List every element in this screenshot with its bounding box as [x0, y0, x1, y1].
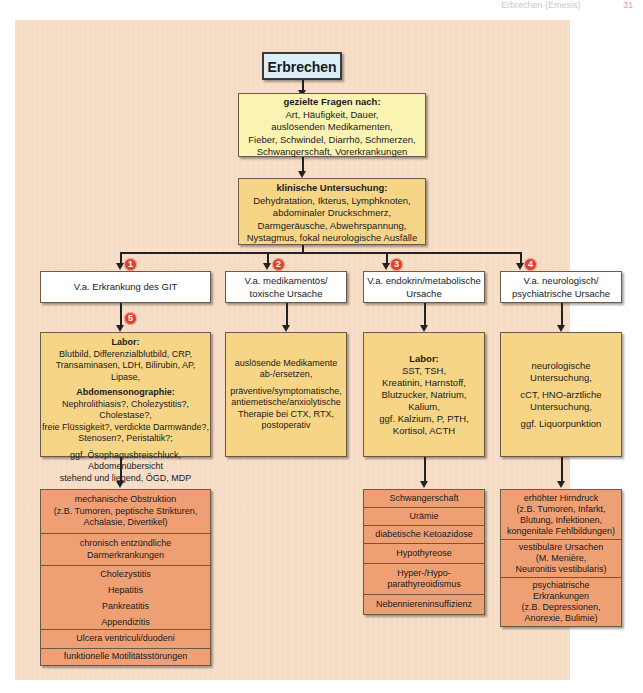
- cause-line: (z.B. Tumoren, peptische Strikturen,: [54, 506, 198, 518]
- workup-heading: Labor:: [41, 337, 210, 349]
- workup-line: Untersuchung,: [501, 401, 621, 413]
- workup-line: antiemetische/anxiolytische: [226, 397, 346, 409]
- cause-item: Nebenniereninsuffizienz: [364, 595, 484, 614]
- cause-item: erhöhter Hirndruck (z.B. Tumoren, Infark…: [501, 490, 621, 540]
- cause-line: diabetische Ketoazidose: [375, 529, 473, 541]
- arrow-icon: [516, 263, 524, 270]
- cause-line: Ulcera ventriculi/duodeni: [76, 633, 175, 645]
- cause-line: (z.B. Depressionen,: [521, 602, 600, 613]
- exam-line: Dehydratation, Ikterus, Lymphknoten,: [239, 195, 425, 208]
- branch-neuro-node: V.a. neurologisch/ psychiatrische Ursach…: [500, 271, 622, 303]
- arrow-icon: [420, 325, 428, 332]
- workup-line: Abdomenübersicht: [41, 461, 210, 473]
- workup-line: cCT, HNO-ärztliche: [501, 389, 621, 401]
- workup-heading: Labor:: [364, 353, 484, 365]
- cause-line: Appendizitis: [101, 614, 150, 630]
- workup-line: stehend und liegend, ÖGD, MDP: [41, 473, 210, 485]
- root-node: Erbrechen: [262, 52, 342, 80]
- questions-node-box: gezielte Fragen nach: Art, Häufigkeit, D…: [238, 93, 426, 157]
- cause-line: Urämie: [409, 511, 438, 523]
- cause-line: kongenitale Fehlbildungen): [507, 526, 615, 537]
- workup-line: präventive/symptomatische,: [226, 386, 346, 398]
- connector: [302, 157, 304, 171]
- branch-gi-node: V.a. Erkrankung des GIT: [40, 271, 211, 303]
- arrow-icon: [420, 481, 428, 488]
- workup-line: Nephrolithiasis?, Cholezystitis?, Choles…: [41, 399, 210, 422]
- cause-item: Hypothyreose: [364, 544, 484, 564]
- cause-line: Pankreatitis: [102, 598, 149, 614]
- exam-line: Darmgeräusche, Abwehrspannung,: [239, 220, 425, 233]
- step-badge-1: 1: [124, 258, 137, 271]
- branch-line: [120, 252, 520, 254]
- connector: [120, 303, 122, 325]
- workup-heading: Abdomensonographie:: [41, 387, 210, 399]
- step-badge-2: 2: [272, 258, 285, 271]
- arrow-icon: [557, 481, 565, 488]
- branch-toxic-node: V.a. medikamentös/ toxische Ursache: [225, 271, 347, 303]
- workup-line: neurologische: [501, 360, 621, 372]
- cause-line: Hypothyreose: [396, 548, 452, 560]
- cause-line: psychiatrische: [532, 580, 589, 591]
- cause-line: Achalasie, Divertikel): [83, 517, 167, 529]
- cause-item: Ulcera ventriculi/duodeni: [41, 630, 210, 649]
- endocrine-causes-list: Schwangerschaft Urämie diabetische Ketoa…: [363, 489, 485, 615]
- workup-line: Kortisol, ACTH: [364, 425, 484, 437]
- branch-neuro-label: V.a. neurologisch/: [501, 275, 621, 288]
- workup-line: auslösende Medikamente: [226, 358, 346, 370]
- step-badge-5: 5: [124, 312, 137, 325]
- questions-line: Fieber, Schwindel, Diarrhö, Schmerzen,: [239, 134, 425, 147]
- cause-line: erhöhter Hirndruck: [524, 493, 599, 504]
- questions-line: Schwangerschaft, Vorerkrankungen: [239, 146, 425, 159]
- branch-endocrine-label: V.a. endokrin/metabolische: [364, 275, 484, 288]
- workup-line: Kreatinin, Harnstoff,: [364, 377, 484, 389]
- cause-line: Hepatitis: [108, 582, 143, 598]
- workup-line: freie Flüssigkeit?, verdickte Darmwände?…: [41, 422, 210, 434]
- arrow-icon: [282, 325, 290, 332]
- cause-line: Erkrankungen: [533, 591, 589, 602]
- branch-neuro-label: psychiatrische Ursache: [501, 288, 621, 301]
- arrow-icon: [116, 481, 124, 488]
- cause-line: Darmerkrankungen: [87, 550, 164, 562]
- cause-item: Schwangerschaft: [364, 490, 484, 508]
- connector: [286, 303, 288, 325]
- running-title: Erbrechen (Emesis): [501, 0, 581, 10]
- exam-heading: klinische Untersuchung:: [239, 182, 425, 195]
- cause-line: parathyreoidismus: [387, 579, 461, 591]
- root-label: Erbrechen: [267, 59, 336, 75]
- cause-line: (M. Menière,: [536, 553, 587, 564]
- cause-line: mechanische Obstruktion: [75, 494, 177, 506]
- cause-item: Hyper-/Hypo- parathyreoidismus: [364, 564, 484, 595]
- connector: [120, 457, 122, 483]
- workup-line: postoperativ: [226, 420, 346, 432]
- questions-line: auslösenden Medikamenten,: [239, 121, 425, 134]
- cause-item: psychiatrische Erkrankungen (z.B. Depres…: [501, 578, 621, 626]
- cause-line: Schwangerschaft: [389, 493, 458, 505]
- neuro-causes-list: erhöhter Hirndruck (z.B. Tumoren, Infark…: [500, 489, 622, 627]
- page-number: 31: [623, 0, 633, 10]
- workup-line: Transaminasen, LDH, Bilirubin, AP, Lipas…: [41, 360, 210, 383]
- connector: [424, 457, 426, 483]
- workup-line: Stenosen?, Peristaltik?;: [41, 433, 210, 445]
- exam-node: klinische Untersuchung: Dehydratation, I…: [238, 178, 426, 245]
- cause-item: vestibuläre Ursachen (M. Menière, Neuron…: [501, 540, 621, 578]
- step-badge-4: 4: [524, 258, 537, 271]
- branch-toxic-label: V.a. medikamentös/: [226, 275, 346, 288]
- workup-line: ggf. Kalzium, P, PTH,: [364, 413, 484, 425]
- cause-line: Anorexie, Bulimie): [524, 613, 597, 624]
- cause-item: diabetische Ketoazidose: [364, 526, 484, 544]
- cause-item: Cholezystitis Hepatitis Pankreatitis App…: [41, 566, 210, 630]
- neuro-workup-node: neurologische Untersuchung, cCT, HNO-ärz…: [500, 332, 622, 457]
- workup-line: ggf. Liquorpunktion: [501, 418, 621, 430]
- endocrine-workup-node: Labor: SST, TSH, Kreatinin, Harnstoff, B…: [363, 332, 485, 457]
- workup-line: Untersuchung,: [501, 372, 621, 384]
- cause-item: chronisch entzündliche Darmerkrankungen: [41, 534, 210, 566]
- questions-heading: gezielte Fragen nach:: [239, 96, 425, 109]
- connector: [561, 303, 563, 325]
- gi-causes-list: mechanische Obstruktion (z.B. Tumoren, p…: [40, 489, 211, 666]
- workup-line: Blutbild, Differenzialblutbild, CRP,: [41, 349, 210, 361]
- questions-line: Art, Häufigkeit, Dauer,: [239, 109, 425, 122]
- arrow-icon: [298, 171, 306, 178]
- workup-line: Therapie bei CTX, RTX,: [226, 409, 346, 421]
- gi-workup-node: Labor: Blutbild, Differenzialblutbild, C…: [40, 332, 211, 457]
- exam-line: abdominaler Druckschmerz,: [239, 207, 425, 220]
